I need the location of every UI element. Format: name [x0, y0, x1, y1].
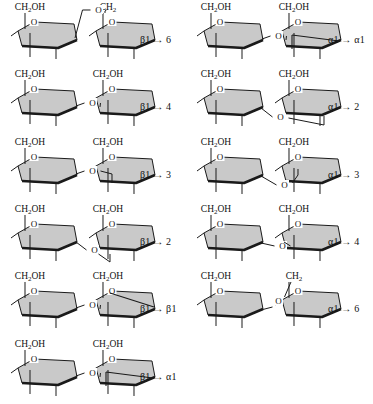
linkage-label: α1 → 3: [328, 169, 359, 180]
glycosidic-oxygen-label: O: [281, 180, 288, 190]
hydroxymethyl-label: CH2OH: [201, 137, 232, 149]
glycosidic-oxygen-label: O: [89, 166, 96, 176]
hydroxymethyl-label: CH2OH: [93, 339, 124, 351]
linkage-cell-a1-4: CH2OHCH2OHOOOα1 → 4: [186, 202, 373, 269]
ring-oxygen-label: O: [31, 17, 38, 27]
hydroxymethyl-label: CH2OH: [15, 339, 46, 351]
linkage-cell-b1-2: CH2OHCH2OHOOOβ1 → 2: [0, 202, 186, 269]
glycosidic-oxygen-label: O: [89, 368, 96, 378]
substituent-bond-c4: [11, 166, 18, 171]
hydroxymethyl-label: CH2OH: [15, 271, 46, 283]
linkage-label: β1 → 6: [140, 34, 171, 45]
glycosidic-bond-donor: [76, 242, 86, 250]
glycosidic-bond-donor: [76, 171, 84, 174]
substituent-bond-c4: [89, 233, 96, 238]
linkage-label: β1 → β1: [140, 303, 177, 314]
linkage-label: β1 → α1: [140, 371, 177, 382]
substituent-bond-c4: [275, 233, 282, 238]
substituent-bond-c4: [197, 300, 204, 305]
linkage-figure-grid: CH2OHCH2OOOβ1 → 6CH2OHCH2OHOOOα1 → α1CH2…: [0, 0, 373, 404]
ring-oxygen-label: O: [295, 152, 302, 162]
glycosidic-bond-donor: [262, 36, 270, 39]
substituent-bond-c4: [11, 368, 18, 373]
empty-cell: [186, 337, 373, 404]
ring-oxygen-label: O: [31, 354, 38, 364]
ring-oxygen-label: O: [295, 287, 302, 297]
hydroxymethyl-label: CH2OH: [15, 2, 46, 14]
substituent-bond-c4: [197, 31, 204, 36]
substituent-bond-c4: [197, 233, 204, 238]
linkage-label: β1 → 3: [140, 169, 171, 180]
glycosidic-bond-donor: [75, 10, 90, 38]
hydroxymethyl-label: CH2OH: [279, 204, 310, 216]
ring-oxygen-label: O: [295, 85, 302, 95]
substituent-bond-c4: [197, 98, 204, 103]
glycosidic-oxygen-label: O: [89, 301, 96, 311]
ring-oxygen-label: O: [217, 17, 224, 27]
glycosidic-oxygen-label: O: [277, 113, 284, 123]
substituent-bond-c4: [11, 233, 18, 238]
linkage-cell-b1-b1: CH2OHCH2OHOOOβ1 → β1: [0, 269, 186, 336]
glycosidic-bond-donor: [261, 176, 276, 185]
linkage-label: β1 → 2: [140, 236, 171, 247]
glycosidic-bond-acceptor: [284, 282, 290, 297]
linkage-cell-a1-3: CH2OHCH2OHOOOα1 → 3: [186, 135, 373, 202]
glycosidic-oxygen-label: O: [95, 5, 102, 15]
glycosidic-bond-donor: [76, 305, 84, 308]
ring-oxygen-label: O: [295, 219, 302, 229]
glycosidic-bond-donor: [76, 103, 84, 106]
linkage-label: α1 → α1: [328, 34, 365, 45]
hydroxymethyl-label: CH2OH: [201, 69, 232, 81]
linkage-label: β1 → 4: [140, 101, 171, 112]
substituent-bond-c4: [89, 31, 96, 36]
linkage-cell-a1-a1: CH2OHCH2OHOOOα1 → α1: [186, 0, 373, 67]
linkage-cell-b1-3: CH2OHCH2OHOOOβ1 → 3: [0, 135, 186, 202]
ring-oxygen-label: O: [217, 287, 224, 297]
glycosidic-oxygen-label: O: [91, 245, 98, 255]
substituent-bond-c4: [197, 166, 204, 171]
glycosidic-oxygen-label: O: [275, 297, 282, 307]
hydroxymethyl-label: CH2OH: [279, 2, 310, 14]
linkage-cell-b1-4: CH2OHCH2OHOOOβ1 → 4: [0, 67, 186, 134]
glycosidic-oxygen-label: O: [89, 99, 96, 109]
methylene-label: CH2: [286, 271, 303, 283]
ring-oxygen-label: O: [31, 85, 38, 95]
ring-oxygen-label: O: [109, 219, 116, 229]
glycosidic-bond-donor: [261, 108, 272, 117]
linkage-cell-a1-6: CH2OHCH2OOOα1 → 6: [186, 269, 373, 336]
glycosidic-bond-donor: [76, 373, 84, 376]
ring-oxygen-label: O: [31, 152, 38, 162]
substituent-bond-c4: [275, 166, 282, 171]
ring-oxygen-label: O: [31, 219, 38, 229]
hydroxymethyl-label: CH2OH: [15, 204, 46, 216]
ring-oxygen-label: O: [109, 85, 116, 95]
glycosidic-bond-donor: [261, 243, 274, 246]
ring-oxygen-label: O: [217, 219, 224, 229]
hydroxymethyl-label: CH2OH: [279, 69, 310, 81]
hydroxymethyl-label: CH2OH: [93, 204, 124, 216]
substituent-bond-c4: [11, 98, 18, 103]
hydroxymethyl-label: CH2OH: [15, 137, 46, 149]
linkage-cell-b1-6: CH2OHCH2OOOβ1 → 6: [0, 0, 186, 67]
substituent-bond-c4: [11, 31, 18, 36]
linkage-cell-a1-2: CH2OHCH2OHOOOα1 → 2: [186, 67, 373, 134]
hydroxymethyl-label: CH2OH: [201, 271, 232, 283]
hydroxymethyl-label: CH2OH: [201, 204, 232, 216]
ring-oxygen-label: O: [109, 17, 116, 27]
substituent-bond-c4: [11, 300, 18, 305]
ring-oxygen-label: O: [295, 17, 302, 27]
ring-oxygen-label: O: [109, 354, 116, 364]
linkage-label: α1 → 6: [328, 303, 359, 314]
hydroxymethyl-label: CH2OH: [15, 69, 46, 81]
linkage-cell-b1-a1: CH2OHCH2OHOOOβ1 → α1: [0, 337, 186, 404]
hydroxymethyl-label: CH2OH: [93, 137, 124, 149]
hydroxymethyl-label: CH2OH: [93, 69, 124, 81]
substituent-bond-c4: [275, 98, 282, 103]
hydroxymethyl-label: CH2OH: [201, 2, 232, 14]
hydroxymethyl-label: CH2OH: [93, 271, 124, 283]
ring-oxygen-label: O: [109, 152, 116, 162]
linkage-label: α1 → 4: [328, 236, 359, 247]
glycosidic-oxygen-label: O: [275, 31, 282, 41]
ring-oxygen-label: O: [217, 85, 224, 95]
hydroxymethyl-label: CH2OH: [279, 137, 310, 149]
